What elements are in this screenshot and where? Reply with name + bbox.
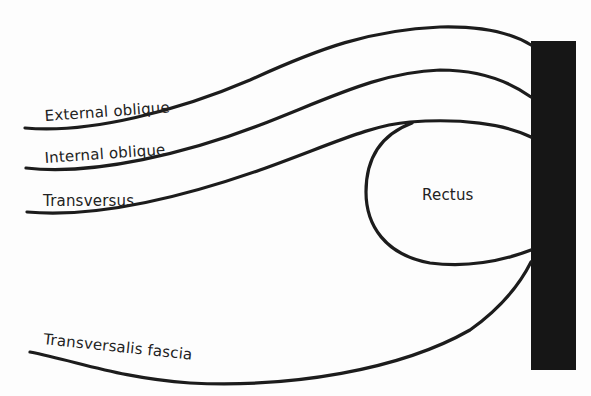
transversalis-fascia-line <box>30 262 531 384</box>
label-external-oblique: External oblique <box>44 98 170 125</box>
diagram-canvas: External oblique Internal oblique Transv… <box>0 0 591 396</box>
label-transversus: Transversus <box>42 192 134 210</box>
label-rectus: Rectus <box>422 186 474 204</box>
diagram-svg: External oblique Internal oblique Transv… <box>0 0 591 396</box>
label-internal-oblique: Internal oblique <box>44 141 166 167</box>
linea-alba-bar <box>531 41 576 370</box>
